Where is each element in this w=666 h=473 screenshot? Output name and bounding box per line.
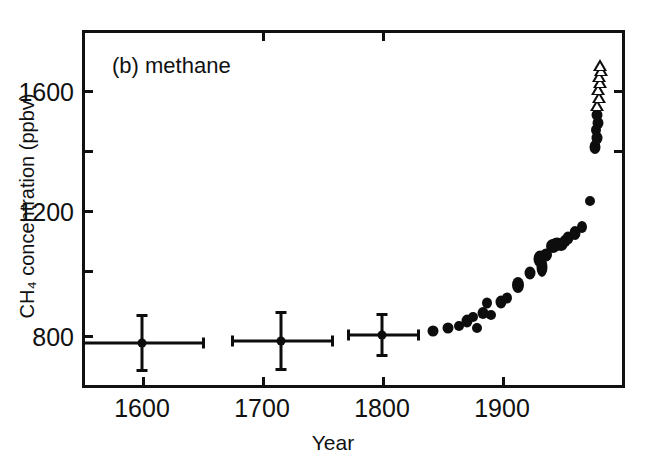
x-tick-label-1700: 1700 — [234, 396, 290, 421]
data-point — [428, 326, 439, 337]
y-tick-1000 — [82, 270, 93, 273]
x-tick-1700 — [262, 377, 265, 388]
x-tick-label-1600: 1600 — [114, 396, 170, 421]
y-tick-label-1600: 1600 — [18, 80, 74, 105]
plot-area — [82, 30, 625, 388]
data-point — [512, 277, 524, 293]
data-point — [525, 267, 536, 280]
data-point — [468, 312, 478, 322]
data-point — [592, 110, 603, 121]
x-tick-top-1800 — [382, 30, 385, 41]
x-tick-label-1800: 1800 — [354, 396, 410, 421]
y-tick-right-1600 — [614, 90, 625, 93]
data-point — [472, 323, 482, 333]
data-point — [502, 293, 512, 304]
y-tick-1600 — [82, 90, 93, 93]
x-tick-1800 — [382, 377, 385, 388]
y-tick-right-1400 — [614, 150, 625, 153]
figure-methane-concentration: CH₄ concentration (ppbv) 1600 1200 800 — [0, 0, 666, 473]
y-tick-1200 — [82, 210, 93, 213]
x-tick-top-1700 — [262, 30, 265, 41]
x-tick-1900 — [502, 377, 505, 388]
data-point — [585, 196, 595, 206]
y-tick-label-1200: 1200 — [18, 200, 74, 225]
data-point — [577, 221, 587, 233]
data-point-errorbar — [347, 313, 417, 357]
data-point-errorbar — [231, 311, 331, 371]
data-point — [486, 310, 496, 320]
y-tick-1400 — [82, 150, 93, 153]
y-axis-tick-labels: 1600 1200 800 — [0, 0, 74, 473]
data-point — [482, 298, 492, 309]
x-axis-title: Year — [0, 432, 666, 453]
y-tick-label-800: 800 — [32, 325, 74, 350]
panel-label: (b) methane — [112, 55, 231, 77]
data-point-errorbar — [82, 314, 202, 372]
data-point — [443, 323, 454, 334]
x-tick-1600 — [142, 377, 145, 388]
x-tick-label-1900: 1900 — [474, 396, 530, 421]
